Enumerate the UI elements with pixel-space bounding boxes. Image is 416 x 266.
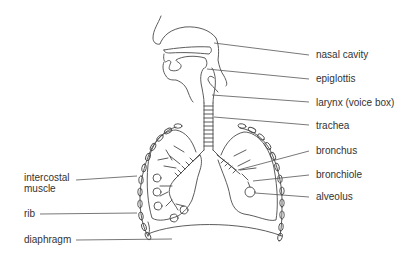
label-rib: rib — [24, 208, 35, 219]
label-intercostal-muscle: intercostal muscle — [24, 172, 70, 194]
rib-chain-left — [138, 124, 182, 241]
head-outline — [153, 16, 227, 102]
label-bronchiole: bronchiole — [316, 169, 362, 180]
diaphragm-shape — [148, 225, 282, 237]
label-nasal-cavity: nasal cavity — [316, 49, 368, 60]
respiratory-illustration — [0, 0, 416, 266]
label-trachea: trachea — [316, 120, 349, 131]
larynx-shape — [201, 68, 216, 103]
label-alveolus: alveolus — [316, 191, 353, 202]
leader-lines-right — [207, 43, 309, 197]
label-diaphragm: diaphragm — [24, 234, 71, 245]
label-intercostal-line2: muscle — [24, 183, 70, 194]
label-intercostal-line1: intercostal — [24, 172, 70, 183]
trachea-shape — [192, 103, 226, 162]
right-lung — [218, 132, 277, 220]
respiratory-diagram: nasal cavity epiglottis larynx (voice bo… — [0, 0, 416, 266]
label-epiglottis: epiglottis — [316, 73, 355, 84]
label-bronchus: bronchus — [316, 145, 357, 156]
label-larynx: larynx (voice box) — [316, 97, 394, 108]
